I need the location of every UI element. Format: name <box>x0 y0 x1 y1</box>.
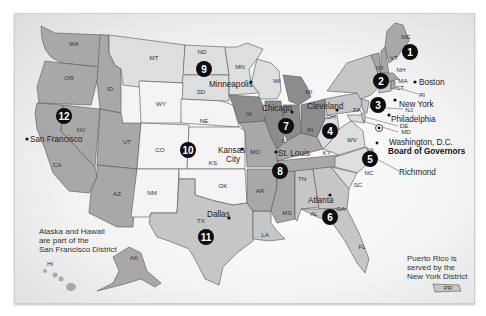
svg-text:MI: MI <box>306 88 313 95</box>
svg-text:WI: WI <box>273 77 281 84</box>
city-minneapolis: Minneapolis <box>209 80 253 89</box>
svg-text:HI: HI <box>47 260 53 267</box>
svg-text:AK: AK <box>130 254 139 261</box>
svg-text:LA: LA <box>261 231 269 238</box>
svg-text:served by the: served by the <box>407 263 456 272</box>
svg-text:1: 1 <box>407 47 413 58</box>
svg-text:UT: UT <box>123 138 131 145</box>
svg-text:10: 10 <box>182 145 194 156</box>
city-cleveland: Cleveland <box>307 102 344 111</box>
state-ri[interactable] <box>391 81 395 89</box>
svg-text:NM: NM <box>147 189 157 196</box>
svg-text:NH: NH <box>397 66 406 73</box>
svg-text:7: 7 <box>283 121 289 132</box>
svg-text:MT: MT <box>150 54 159 61</box>
district-badge-12[interactable]: 12 <box>56 108 72 124</box>
svg-text:OK: OK <box>219 182 229 189</box>
svg-text:PR: PR <box>444 284 453 291</box>
city-boston: Boston <box>419 78 445 87</box>
svg-text:6: 6 <box>327 212 333 223</box>
svg-text:NE: NE <box>200 117 209 124</box>
district-badge-7[interactable]: 7 <box>278 118 294 134</box>
district-badge-6[interactable]: 6 <box>322 209 338 225</box>
svg-text:Puerto Rico is: Puerto Rico is <box>407 254 457 263</box>
svg-text:CA: CA <box>53 161 62 168</box>
district-badge-9[interactable]: 9 <box>196 61 212 77</box>
district-badge-2[interactable]: 2 <box>373 73 389 89</box>
note-puerto-rico: Puerto Rico is served by the New York Di… <box>407 254 468 281</box>
city-kansas: Kansas <box>218 146 245 155</box>
svg-text:IN: IN <box>307 126 313 133</box>
district-badge-3[interactable]: 3 <box>370 97 386 113</box>
map-frame: WA OR CA NV ID MT WY UT AZ CO NM ND SD N… <box>14 13 475 304</box>
svg-text:New York District: New York District <box>407 272 468 281</box>
district-map: WA OR CA NV ID MT WY UT AZ CO NM ND SD N… <box>15 14 474 303</box>
city-philadelphia: Philadelphia <box>391 115 436 124</box>
city-new-york: New York <box>399 100 434 109</box>
svg-text:AZ: AZ <box>113 190 121 197</box>
city-washington: Washington, D.C. <box>389 138 453 147</box>
svg-text:SC: SC <box>354 181 363 188</box>
svg-text:SD: SD <box>197 88 206 95</box>
svg-text:12: 12 <box>58 111 70 122</box>
district-badge-8[interactable]: 8 <box>272 163 288 179</box>
district-badge-4[interactable]: 4 <box>322 123 338 139</box>
svg-text:Alaska and Hawaii: Alaska and Hawaii <box>39 227 105 236</box>
svg-text:NY: NY <box>376 64 385 71</box>
district-9 <box>109 35 281 101</box>
city-richmond: Richmond <box>399 168 436 177</box>
svg-text:5: 5 <box>367 154 373 165</box>
svg-text:KY: KY <box>323 149 331 156</box>
state-nj[interactable] <box>361 99 369 113</box>
svg-text:8: 8 <box>277 166 283 177</box>
svg-text:MA: MA <box>398 77 408 84</box>
district-badge-5[interactable]: 5 <box>362 151 378 167</box>
svg-text:TX: TX <box>197 217 205 224</box>
svg-text:AL: AL <box>310 210 318 217</box>
svg-text:WA: WA <box>69 40 80 47</box>
district-badge-10[interactable]: 10 <box>180 142 196 158</box>
state-hi[interactable] <box>43 269 76 291</box>
city-st-louis: St. Louis <box>278 149 310 158</box>
svg-text:9: 9 <box>201 64 207 75</box>
svg-text:ND: ND <box>198 48 207 55</box>
svg-text:MD: MD <box>401 128 411 135</box>
svg-text:MS: MS <box>282 209 291 216</box>
svg-text:KS: KS <box>209 159 217 166</box>
svg-text:11: 11 <box>201 232 212 243</box>
svg-text:MO: MO <box>250 148 260 155</box>
city-atlanta: Atlanta <box>308 196 334 205</box>
city-kansas-city: City <box>226 155 241 164</box>
district-badge-1[interactable]: 1 <box>402 44 418 60</box>
svg-text:NV: NV <box>77 126 86 133</box>
city-san-francisco: San Francisco <box>30 135 83 144</box>
svg-text:PA: PA <box>353 106 362 113</box>
state-or[interactable] <box>37 61 100 105</box>
svg-text:AR: AR <box>256 187 265 194</box>
svg-text:ME: ME <box>401 33 410 40</box>
svg-text:are part of the: are part of the <box>39 236 89 245</box>
city-dallas: Dallas <box>207 210 230 219</box>
state-ny[interactable] <box>327 55 379 99</box>
state-ut[interactable] <box>97 109 141 169</box>
district-badge-11[interactable]: 11 <box>198 229 214 245</box>
svg-text:VT: VT <box>390 54 398 61</box>
svg-text:2: 2 <box>378 76 384 87</box>
svg-text:WY: WY <box>156 100 166 107</box>
svg-text:IL: IL <box>281 137 287 144</box>
svg-text:OR: OR <box>64 74 74 81</box>
svg-text:OH: OH <box>326 113 335 120</box>
svg-text:ID: ID <box>107 85 114 92</box>
note-alaska-hawaii: Alaska and Hawaii are part of the San Fr… <box>39 227 118 254</box>
svg-text:NC: NC <box>365 169 374 176</box>
svg-text:CO: CO <box>155 146 164 153</box>
city-chicago: Chicago <box>262 104 292 113</box>
svg-text:4: 4 <box>327 126 333 137</box>
board-of-governors: Board of Governors <box>388 147 466 156</box>
state-ne[interactable] <box>181 99 239 127</box>
svg-text:GA: GA <box>337 205 347 212</box>
svg-text:FL: FL <box>358 243 366 250</box>
svg-text:IA: IA <box>246 110 253 117</box>
svg-text:San Francisco District: San Francisco District <box>39 245 118 254</box>
svg-text:TN: TN <box>298 175 306 182</box>
